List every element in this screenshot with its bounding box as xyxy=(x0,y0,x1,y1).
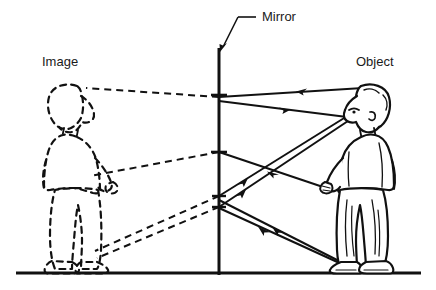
label-mirror: Mirror xyxy=(262,9,297,24)
label-image: Image xyxy=(42,54,78,69)
ray-diagram-canvas: Image Mirror Object xyxy=(0,0,436,290)
optics-diagram-svg: Image Mirror Object xyxy=(0,0,436,290)
boy-ear xyxy=(369,112,375,121)
boy-shoe-right xyxy=(359,261,393,274)
boy-pupil xyxy=(352,110,355,113)
label-object: Object xyxy=(356,54,394,69)
